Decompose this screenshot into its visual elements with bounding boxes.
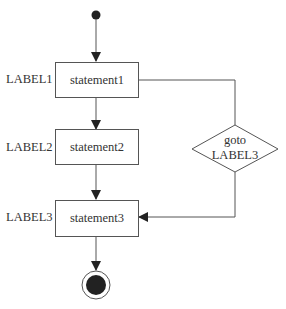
decision-line2: LABEL3 [195, 148, 275, 163]
label-2: LABEL2 [6, 140, 53, 155]
decision-text: goto LABEL3 [195, 133, 275, 163]
initial-node [92, 11, 101, 20]
statement3-box: statement3 [55, 200, 139, 237]
edge-goto-s3 [139, 172, 235, 217]
decision-line1: goto [195, 133, 275, 148]
final-node [86, 275, 106, 295]
label-1: LABEL1 [6, 72, 53, 87]
statement2-box: statement2 [55, 129, 139, 165]
label-3: LABEL3 [6, 210, 53, 225]
edge-s1-goto [138, 80, 235, 125]
statement1-box: statement1 [55, 62, 139, 98]
